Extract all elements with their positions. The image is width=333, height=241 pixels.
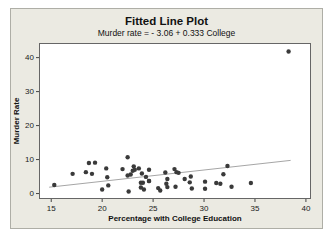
chart-title: Fitted Line Plot [11,9,322,27]
plot-area [39,43,311,199]
regression-equation: Murder rate = - 3.06 + 0.333 College [11,28,322,38]
x-axis-title: Percentage with College Education [108,214,241,223]
y-axis-title: Murder Rate [12,98,21,145]
fitted-line-plot-figure: Fitted Line Plot Murder rate = - 3.06 + … [0,0,333,241]
